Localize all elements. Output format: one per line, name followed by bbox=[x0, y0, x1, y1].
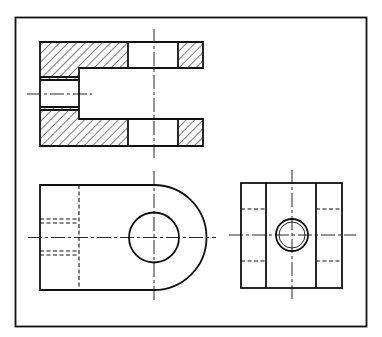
sectional-top-view bbox=[27, 29, 203, 158]
front-view bbox=[28, 171, 216, 302]
technical-drawing bbox=[0, 0, 382, 337]
side-view bbox=[229, 170, 356, 300]
